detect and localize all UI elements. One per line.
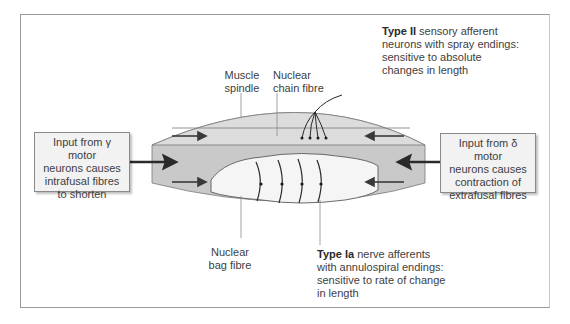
gamma-box-line4: to shorten [39, 188, 125, 201]
type-ia-line2: with annulospiral endings: [317, 261, 517, 274]
type-ii-line3: sensitive to absolute [382, 51, 562, 64]
muscle-spindle-label-line: Muscle [212, 69, 272, 82]
nuclear-chain-label-line: chain fibre [273, 82, 353, 95]
nuclear-chain-label-line: Nuclear [273, 69, 353, 82]
type-ii-line2: neurons with spray endings: [382, 38, 562, 51]
type-ii-afferent-label: Type II sensory afferent neurons with sp… [382, 25, 562, 77]
type-ii-line4: changes in length [382, 64, 562, 77]
type-ii-bold: Type II [382, 25, 416, 37]
nuclear-bag-fibre-label: Nuclear bag fibre [200, 246, 260, 272]
muscle-spindle-label: Muscle spindle [212, 69, 272, 95]
nuclear-chain-fibre-region [152, 113, 425, 146]
type-ia-line1-rest: nerve afferents [354, 248, 430, 260]
type-ia-afferent-label: Type Ia nerve afferents with annulospira… [317, 248, 517, 300]
delta-box-line1: Input from δ motor [445, 137, 531, 163]
muscle-spindle-label-line: spindle [212, 82, 272, 95]
gamma-box-line1: Input from γ motor [39, 136, 125, 162]
nuclear-chain-fibre-label: Nuclear chain fibre [273, 69, 353, 95]
gamma-motor-input-box: Input from γ motor neurons causes intraf… [34, 132, 130, 192]
delta-box-line2: neurons causes [445, 163, 531, 176]
delta-box-line3: contraction of [445, 176, 531, 189]
gamma-box-line3: intrafusal fibres [39, 175, 125, 188]
type-ii-line1: Type II sensory afferent [382, 25, 562, 38]
delta-box-line4: extrafusal fibres [445, 189, 531, 202]
type-ia-line4: in length [317, 287, 517, 300]
type-ii-line1-rest: sensory afferent [416, 25, 498, 37]
nuclear-bag-label-line: Nuclear [200, 246, 260, 259]
type-ia-bold: Type Ia [317, 248, 354, 260]
type-ia-line1: Type Ia nerve afferents [317, 248, 517, 261]
type-ia-line3: sensitive to rate of change [317, 274, 517, 287]
gamma-box-line2: neurons causes [39, 162, 125, 175]
delta-motor-input-box: Input from δ motor neurons causes contra… [440, 133, 536, 193]
nuclear-bag-label-line: bag fibre [200, 259, 260, 272]
